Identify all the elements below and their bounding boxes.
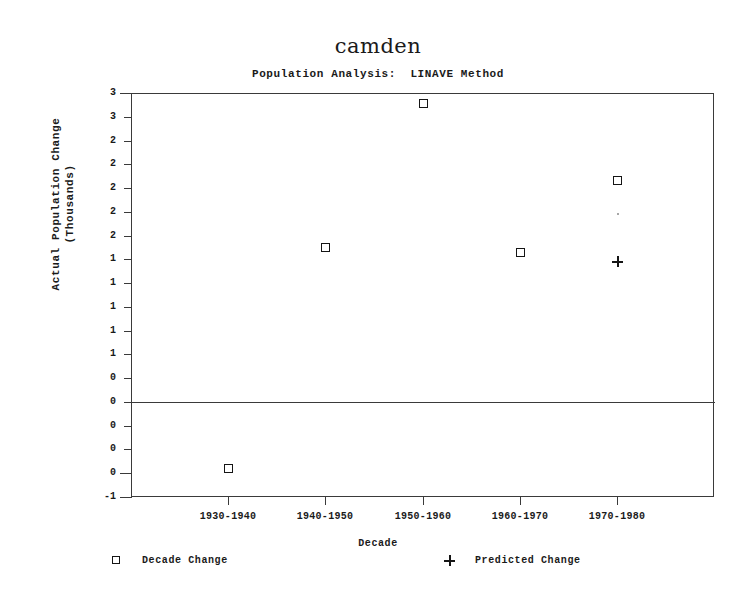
chart-legend: Decade Change Predicted Change [0,552,756,574]
y-tick-label: 0 [88,421,116,431]
y-tick-label: 3 [88,88,116,98]
y-tick-label: 0 [88,468,116,478]
y-tick-label: 3 [88,112,116,122]
y-tick-mark [120,497,132,498]
legend-label: Decade Change [142,555,228,566]
square-marker-icon [110,553,124,567]
data-point-decade [613,176,622,185]
x-tick-label: 1950-1960 [368,511,478,522]
y-tick-label: 1 [88,349,116,359]
plot-area [131,93,714,497]
y-tick-label: 0 [88,373,116,383]
y-axis-label: Actual Population Change (Thousands) [49,89,77,319]
y-tick-label: 1 [88,302,116,312]
x-tick-label: 1940-1950 [270,511,380,522]
x-axis-label: Decade [0,538,756,549]
data-point-predicted [612,256,623,267]
chart-title: camden [0,34,756,58]
y-tick-label: 2 [88,159,116,169]
x-tick-mark [228,497,229,505]
x-tick-mark [325,497,326,505]
x-tick-label: 1970-1980 [562,511,672,522]
y-tick-label: 0 [88,397,116,407]
chart-subtitle: Population Analysis: LINAVE Method [0,68,756,80]
x-tick-mark [423,497,424,505]
data-point-decade [516,248,525,257]
faint-dot-artifact [617,213,619,215]
data-point-decade [321,243,330,252]
legend-item-decade-change: Decade Change [110,552,228,568]
y-tick-label: 2 [88,136,116,146]
y-tick-label: 2 [88,231,116,241]
y-tick-label: 2 [88,183,116,193]
x-tick-label: 1930-1940 [173,511,283,522]
zero-reference-line [132,402,715,403]
x-tick-mark [617,497,618,505]
y-tick-label: 2 [88,207,116,217]
data-point-decade [224,464,233,473]
x-tick-label: 1960-1970 [465,511,575,522]
y-tick-label: 1 [88,326,116,336]
y-tick-label: 1 [88,254,116,264]
y-tick-label: 0 [88,444,116,454]
legend-item-predicted-change: Predicted Change [443,552,581,568]
data-point-decade [419,99,428,108]
x-tick-mark [520,497,521,505]
plus-marker-icon [443,553,457,567]
chart-figure: camden Population Analysis: LINAVE Metho… [0,0,756,601]
y-tick-label: 1 [88,278,116,288]
y-tick-label: -1 [88,492,116,502]
legend-label: Predicted Change [475,555,581,566]
